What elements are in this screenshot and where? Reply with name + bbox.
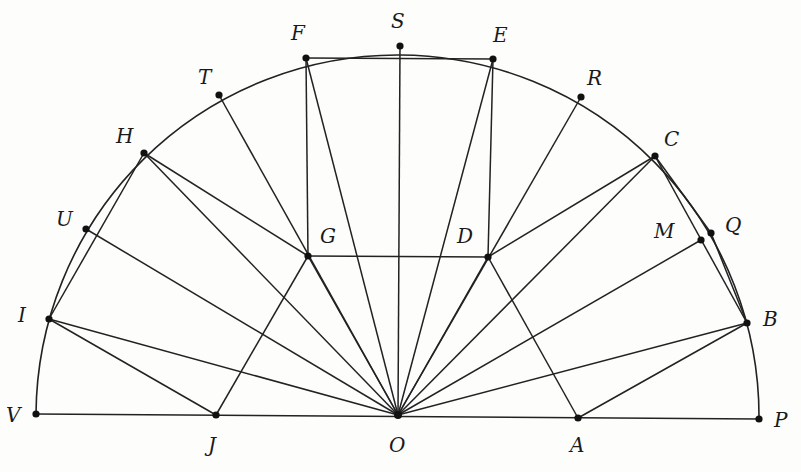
label-v: V <box>6 403 23 427</box>
semicircle-arc <box>36 55 759 419</box>
label-f: F <box>290 21 306 45</box>
segment-da <box>488 257 578 418</box>
point-u <box>82 225 89 232</box>
label-r: R <box>586 66 602 90</box>
label-q: Q <box>725 213 741 237</box>
point-v <box>32 410 39 417</box>
point-h <box>140 149 147 156</box>
point-j <box>212 411 219 418</box>
label-c: C <box>664 127 679 151</box>
label-j: J <box>204 433 217 457</box>
label-p: P <box>773 408 788 432</box>
point-r <box>577 93 584 100</box>
point-q <box>707 229 714 236</box>
segment-os <box>398 46 400 415</box>
point-a <box>574 414 581 421</box>
segment-od <box>398 257 488 415</box>
point-b <box>743 319 750 326</box>
point-g <box>304 252 311 259</box>
label-d: D <box>456 224 473 248</box>
segment-ab <box>578 323 747 418</box>
point-d <box>484 253 491 260</box>
label-i: I <box>17 303 27 327</box>
point-e <box>489 55 496 62</box>
segment-ed <box>488 59 493 257</box>
segment-cd <box>488 156 655 257</box>
point-m <box>697 236 704 243</box>
point-f <box>302 54 309 61</box>
label-t: T <box>198 65 213 89</box>
segment-hi <box>49 153 144 319</box>
segment-om <box>398 240 701 415</box>
segment-oc <box>398 156 655 415</box>
segment-gd <box>308 256 488 257</box>
segment-oe <box>398 59 493 415</box>
segment-ob <box>398 323 747 415</box>
point-s <box>396 42 403 49</box>
segment-qb <box>711 233 747 323</box>
segment-fe <box>306 58 493 59</box>
point-t <box>215 91 222 98</box>
diagram-svg: VJOAPIUHTFSERCMQBGD <box>0 0 801 472</box>
segment-gh <box>144 153 308 256</box>
segment-ij <box>49 319 216 415</box>
point-labels: VJOAPIUHTFSERCMQBGD <box>6 9 788 457</box>
label-s: S <box>391 9 405 33</box>
point-i <box>45 315 52 322</box>
label-o: O <box>389 433 405 457</box>
segment-jg <box>216 256 308 415</box>
label-h: H <box>115 124 134 148</box>
label-e: E <box>492 23 508 47</box>
segments <box>36 46 759 419</box>
point-p <box>755 415 762 422</box>
label-g: G <box>320 224 336 248</box>
semicircle-arc-path <box>36 55 759 419</box>
point-c <box>651 152 658 159</box>
segment-fg <box>306 58 308 256</box>
point-o <box>394 411 402 419</box>
label-m: M <box>653 219 675 243</box>
geometry-diagram: VJOAPIUHTFSERCMQBGD <box>0 0 801 472</box>
label-a: A <box>568 433 584 457</box>
segment-oh <box>144 153 398 415</box>
label-b: B <box>762 307 778 331</box>
label-u: U <box>56 207 74 231</box>
